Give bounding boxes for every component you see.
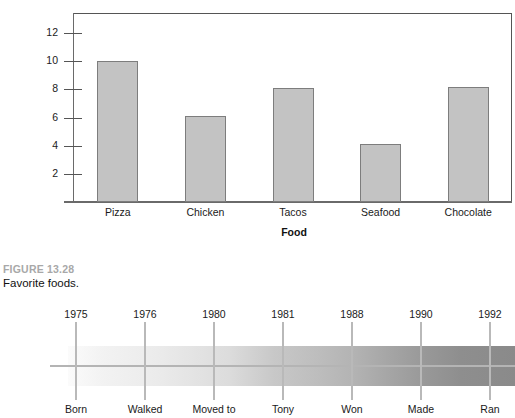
timeline-year-label: 1976 — [133, 308, 156, 321]
timeline-event-label: Tony — [272, 403, 294, 416]
y-axis-tick — [64, 174, 82, 175]
figure-number: FIGURE 13.28 — [3, 262, 303, 276]
y-axis-tick-label: 4 — [30, 140, 58, 151]
timeline-event-label: Ran — [480, 403, 499, 416]
category-label-chocolate: Chocolate — [424, 206, 512, 219]
timeline-tick — [282, 322, 284, 400]
bar-chart-figure: 12108642 PizzaChickenTacosSeafoodChocola… — [0, 0, 515, 250]
timeline-tick — [489, 322, 491, 400]
timeline-tick — [213, 322, 215, 400]
y-axis-tick-label: 12 — [30, 27, 58, 38]
timeline-event-label: Born — [65, 403, 87, 416]
timeline-tick — [144, 322, 146, 400]
timeline-year-label: 1992 — [478, 308, 501, 321]
y-axis-tick — [64, 146, 82, 147]
category-label-tacos: Tacos — [249, 206, 337, 219]
y-axis-tick — [64, 33, 82, 34]
figure-title: Favorite foods. — [3, 276, 303, 292]
timeline-figure: 1975Born1976Walked1980Moved to1981Tony19… — [0, 310, 515, 418]
bar-chicken — [185, 116, 226, 202]
category-label-pizza: Pizza — [74, 206, 162, 219]
bar-chocolate — [448, 87, 489, 202]
timeline-event-label: Made — [408, 403, 434, 416]
bar-seafood — [360, 144, 401, 202]
bar-pizza — [97, 61, 138, 202]
timeline-year-label: 1981 — [271, 308, 294, 321]
figure-caption: FIGURE 13.28 Favorite foods. — [3, 262, 303, 292]
y-axis-tick-label: 2 — [30, 168, 58, 179]
timeline-tick — [351, 322, 353, 400]
timeline-year-label: 1980 — [202, 308, 225, 321]
y-axis-tick — [64, 61, 82, 62]
y-axis-tick-label: 10 — [30, 55, 58, 66]
timeline-event-label: Won — [341, 403, 362, 416]
timeline-year-label: 1990 — [409, 308, 432, 321]
timeline-year-label: 1988 — [340, 308, 363, 321]
y-axis-tick-label: 8 — [30, 83, 58, 94]
x-axis-title: Food — [0, 226, 515, 238]
timeline-tick — [75, 322, 77, 400]
timeline-event-label: Moved to — [192, 403, 235, 416]
timeline-event-label: Walked — [128, 403, 163, 416]
timeline-year-label: 1975 — [64, 308, 87, 321]
category-label-chicken: Chicken — [162, 206, 250, 219]
category-label-seafood: Seafood — [337, 206, 425, 219]
y-axis-tick — [64, 89, 82, 90]
timeline-tick — [420, 322, 422, 400]
bar-tacos — [273, 88, 314, 202]
y-axis-tick-label: 6 — [30, 112, 58, 123]
y-axis-tick — [64, 118, 82, 119]
